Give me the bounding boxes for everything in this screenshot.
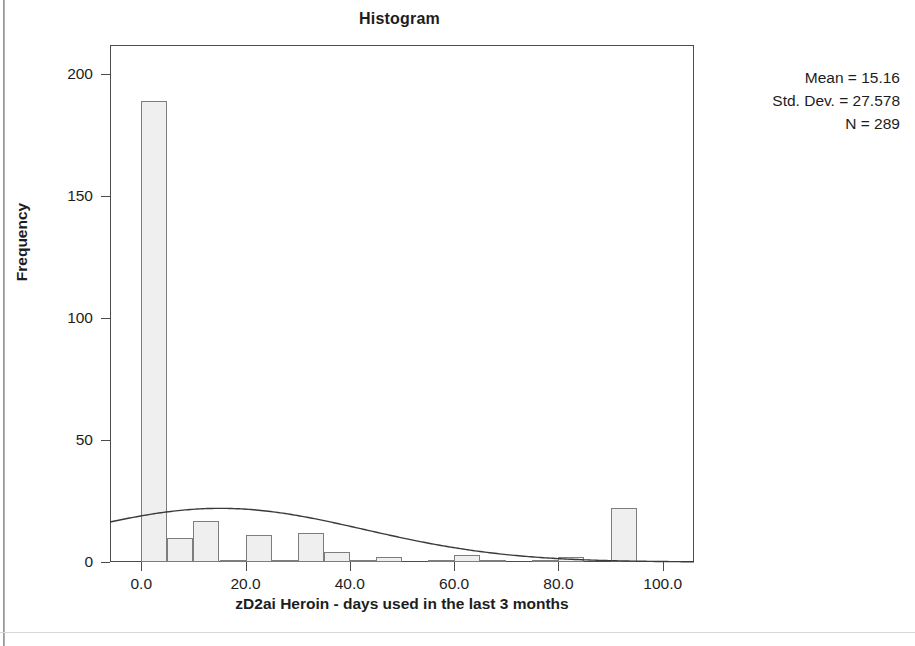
stat-std-dev: Std. Dev. = 27.578 bbox=[700, 89, 900, 112]
chart-title: Histogram bbox=[0, 10, 915, 28]
scan-edge-bottom bbox=[0, 632, 915, 633]
x-axis-tick-label: 60.0 bbox=[409, 575, 499, 593]
y-axis-tick bbox=[101, 74, 110, 75]
plot-area: 0501001502000.020.040.060.080.0100.0 bbox=[110, 45, 694, 562]
y-axis-tick bbox=[101, 196, 110, 197]
x-axis-tick bbox=[350, 562, 351, 571]
y-axis-tick-label: 200 bbox=[3, 65, 93, 83]
x-axis-tick bbox=[246, 562, 247, 571]
normal-curve-path bbox=[110, 508, 694, 561]
x-axis-tick-label: 40.0 bbox=[305, 575, 395, 593]
x-axis-tick bbox=[558, 562, 559, 571]
histogram-page: Histogram Mean = 15.16 Std. Dev. = 27.57… bbox=[0, 0, 915, 646]
stat-n: N = 289 bbox=[700, 112, 900, 135]
statistics-annotation: Mean = 15.16 Std. Dev. = 27.578 N = 289 bbox=[700, 66, 900, 135]
x-axis-tick-label: 0.0 bbox=[96, 575, 186, 593]
normal-distribution-curve bbox=[110, 45, 694, 562]
chart-title-text: Histogram bbox=[359, 10, 440, 27]
y-axis-tick bbox=[101, 318, 110, 319]
x-axis-tick-label: 80.0 bbox=[513, 575, 603, 593]
y-axis-tick-label: 50 bbox=[3, 431, 93, 449]
y-axis-tick-label: 100 bbox=[3, 309, 93, 327]
x-axis-tick bbox=[454, 562, 455, 571]
x-axis-tick-label: 100.0 bbox=[618, 575, 708, 593]
y-axis-tick-label: 150 bbox=[3, 187, 93, 205]
x-axis-tick bbox=[663, 562, 664, 571]
x-axis-title: zD2ai Heroin - days used in the last 3 m… bbox=[110, 595, 694, 613]
y-axis-tick-label: 0 bbox=[3, 553, 93, 571]
y-axis-tick bbox=[101, 440, 110, 441]
x-axis-tick-label: 20.0 bbox=[201, 575, 291, 593]
x-axis-tick bbox=[141, 562, 142, 571]
y-axis-tick bbox=[101, 562, 110, 563]
stat-mean: Mean = 15.16 bbox=[700, 66, 900, 89]
